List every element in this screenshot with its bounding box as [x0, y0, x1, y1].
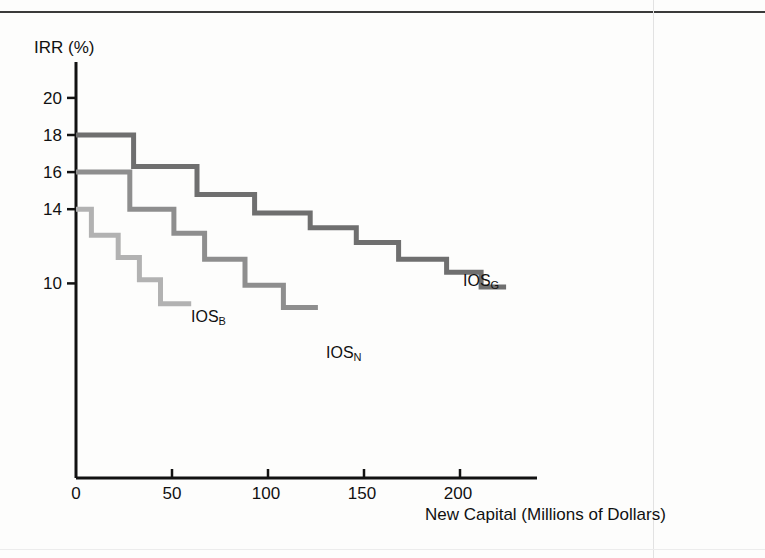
series-lines: [76, 135, 506, 308]
x-axis-title: New Capital (Millions of Dollars): [425, 505, 666, 525]
x-tick-label-150: 150: [340, 484, 384, 504]
tick-marks: [67, 98, 460, 478]
y-tick-label-16: 16: [20, 163, 62, 183]
x-tick-label-0: 0: [56, 484, 96, 504]
x-tick-label-100: 100: [244, 484, 288, 504]
ios-n-annotation-sub: N: [354, 351, 362, 363]
x-tick-label-200: 200: [436, 484, 480, 504]
ios-g-annotation-base: IOS: [463, 272, 491, 289]
y-tick-label-10: 10: [20, 274, 62, 294]
y-tick-label-20: 20: [20, 89, 62, 109]
ios-b-annotation-sub: B: [219, 315, 226, 327]
ios-b-annotation-base: IOS: [191, 308, 219, 325]
y-tick-label-14: 14: [20, 200, 62, 220]
ios-g-annotation-sub: G: [491, 279, 500, 291]
ios-n-annotation-base: IOS: [326, 344, 354, 361]
ios-g-annotation: IOSG: [463, 272, 499, 290]
figure-page: IRR (%) New Capital (Millions of Dollars…: [0, 0, 765, 558]
ios-b-annotation: IOSB: [191, 308, 226, 326]
ios-n-annotation: IOSN: [326, 344, 362, 362]
x-tick-label-50: 50: [152, 484, 192, 504]
y-axis-title: IRR (%): [34, 38, 94, 58]
step-chart-plot: [0, 0, 765, 558]
y-tick-label-18: 18: [20, 126, 62, 146]
